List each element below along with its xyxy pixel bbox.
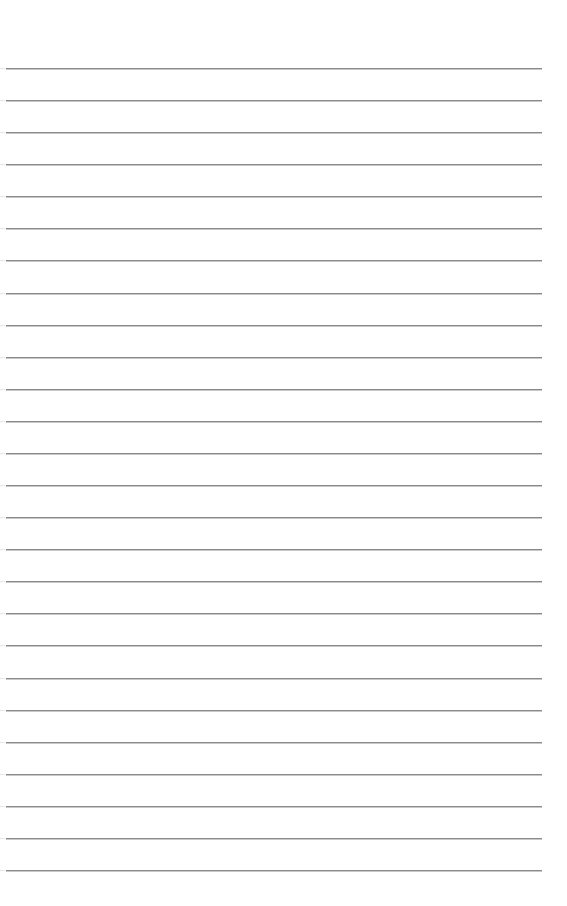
ruled-line xyxy=(6,710,542,712)
ruled-line xyxy=(6,293,542,295)
ruled-line xyxy=(6,870,542,872)
ruled-line xyxy=(6,549,542,551)
ruled-line xyxy=(6,325,542,327)
ruled-line xyxy=(6,228,542,230)
ruled-line xyxy=(6,164,542,166)
ruled-line xyxy=(6,613,542,615)
ruled-line xyxy=(6,389,542,391)
ruled-line xyxy=(6,132,542,134)
ruled-line xyxy=(6,260,542,262)
ruled-line xyxy=(6,742,542,744)
ruled-line xyxy=(6,517,542,519)
ruled-line xyxy=(6,774,542,776)
ruled-line xyxy=(6,678,542,680)
ruled-line xyxy=(6,838,542,840)
ruled-line xyxy=(6,196,542,198)
ruled-line xyxy=(6,453,542,455)
ruled-line xyxy=(6,581,542,583)
ruled-line xyxy=(6,421,542,423)
ruled-line xyxy=(6,485,542,487)
ruled-line xyxy=(6,357,542,359)
ruled-line xyxy=(6,645,542,647)
ruled-line xyxy=(6,806,542,808)
ruled-line xyxy=(6,68,542,70)
lined-paper-page xyxy=(0,0,567,906)
ruled-line xyxy=(6,100,542,102)
